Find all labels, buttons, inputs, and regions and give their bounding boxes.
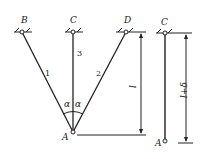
angle-label-right: α xyxy=(75,99,81,109)
label-c-right: C xyxy=(161,17,168,27)
label-b: B xyxy=(20,15,28,25)
label-bar-1: 1 xyxy=(45,69,50,78)
angle-label-left: α xyxy=(64,99,70,109)
bar-2 xyxy=(73,32,126,132)
pin-a xyxy=(71,130,75,134)
label-a: A xyxy=(61,132,69,142)
label-c: C xyxy=(70,15,77,25)
pin-c-right xyxy=(163,31,167,35)
bar-1 xyxy=(22,32,73,132)
label-a-right: A xyxy=(154,138,162,148)
label-dimension-l: l xyxy=(128,85,138,88)
truss-diagram: B C D 1 3 2 α α A l C A l+δ xyxy=(0,0,201,159)
label-bar-2: 2 xyxy=(96,69,101,78)
pin-a-right xyxy=(163,139,167,143)
pin-c xyxy=(71,30,75,34)
label-dimension-l-delta: l+δ xyxy=(179,82,189,98)
label-d: D xyxy=(123,15,131,25)
label-bar-3: 3 xyxy=(77,49,82,58)
pin-b xyxy=(20,30,24,34)
pin-d xyxy=(124,30,128,34)
